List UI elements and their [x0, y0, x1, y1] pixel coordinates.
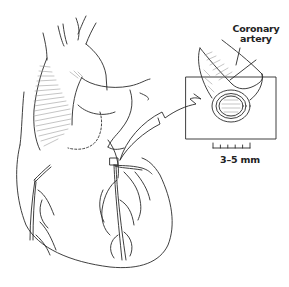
coronary-artery-label: Coronary artery	[228, 24, 284, 44]
scale-bar	[213, 143, 250, 148]
heart-outline	[17, 90, 173, 268]
coronary-artery-label-line2: artery	[228, 34, 284, 44]
aorta	[20, 16, 150, 150]
artery-hatching	[204, 52, 240, 116]
scale-label: 3–5 mm	[218, 155, 262, 165]
right-coronary-artery	[30, 165, 56, 255]
artery-inset	[186, 40, 276, 139]
aorta-hatching	[34, 66, 82, 146]
left-coronary-artery	[100, 158, 152, 260]
